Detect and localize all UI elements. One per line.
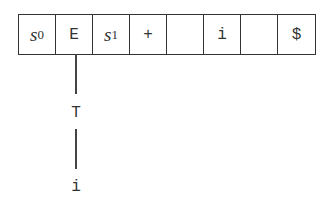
edge-E-T [75, 54, 77, 94]
stack-cell-state-0: s0 [19, 15, 56, 54]
tree-node-T: T [71, 104, 81, 122]
stack-cell-empty-1 [167, 15, 204, 54]
stack-cell-i: i [204, 15, 241, 54]
stack-cell-dollar: $ [278, 15, 315, 54]
edge-T-i [75, 129, 77, 169]
stack-cell-empty-2 [241, 15, 278, 54]
parse-stack: s0 E s1 + i $ [18, 14, 316, 55]
stack-cell-plus: + [130, 15, 167, 54]
stack-cell-state-1: s1 [93, 15, 130, 54]
stack-cell-E: E [56, 15, 93, 54]
tree-node-i: i [71, 178, 81, 196]
